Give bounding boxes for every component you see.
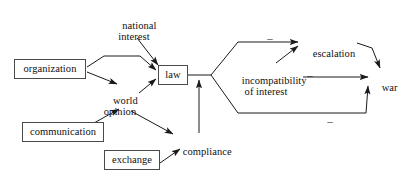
node-compliance-label: compliance <box>183 146 232 157</box>
node-organization-label: organization <box>24 63 77 75</box>
edge-sign-law-to-war: – <box>325 118 335 124</box>
diagram-edges-layer <box>0 0 410 187</box>
causal-diagram: organization national interest law world… <box>0 0 410 187</box>
node-world-opinion[interactable]: world opinion <box>94 83 146 109</box>
node-exchange-label: exchange <box>112 154 152 166</box>
node-escalation[interactable]: escalation <box>302 36 354 50</box>
node-organization[interactable]: organization <box>14 59 86 79</box>
node-escalation-label: escalation <box>313 48 355 59</box>
edge-organization-to-law <box>87 56 156 70</box>
node-national-interest[interactable]: national interest <box>106 8 162 34</box>
edge-world-opinion-to-compliance <box>131 111 173 134</box>
node-compliance[interactable]: compliance <box>172 134 230 148</box>
edge-incompatibility-to-escalation <box>276 46 298 63</box>
node-world-opinion-label: world opinion <box>104 95 138 118</box>
node-law[interactable]: law <box>158 65 188 85</box>
node-incompatibility-of-interest[interactable]: incompatibility of interest <box>231 63 301 89</box>
edge-sign-law-to-escalation: – <box>265 35 275 41</box>
node-communication-label: communication <box>30 126 96 138</box>
node-law-label: law <box>165 69 180 81</box>
node-war-label: war <box>382 82 398 93</box>
edge-escalation-to-war <box>357 43 380 68</box>
node-exchange[interactable]: exchange <box>104 150 160 170</box>
node-war[interactable]: war <box>371 70 395 84</box>
node-communication[interactable]: communication <box>22 122 104 142</box>
edge-sign-incompatibility-to-war: – <box>305 72 315 78</box>
